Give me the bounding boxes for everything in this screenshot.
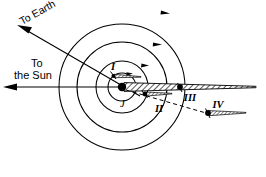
satellite-III-label: III [183, 92, 197, 103]
satellite-IV-shadow-cone [209, 111, 246, 116]
diagram-canvas: To Earth To the Sun J I II III IV [0, 0, 266, 177]
satellite-II-label: II [154, 103, 164, 114]
satellite-II-shadow-cone [146, 92, 172, 96]
orbit-direction-second-arrowhead [141, 64, 149, 68]
satellite-I-label: I [110, 61, 116, 72]
satellite-IV-shadow-cone-group [209, 111, 246, 116]
jupiter-satellites-diagram: To Earth To the Sun J I II III IV [0, 0, 266, 177]
satellite-IV-label: IV [211, 99, 224, 110]
jupiter-shadow-cone-group [124, 83, 256, 92]
jupiter-label: J [120, 97, 126, 109]
to-sun-label-line1: To [31, 57, 43, 69]
to-earth-label: To Earth [17, 0, 57, 27]
jupiter-body [118, 83, 126, 91]
to-sun-arrowhead [3, 83, 17, 90]
orbit-direction-outer-arrowhead [161, 11, 171, 15]
satellite-II-shadow-cone-group [146, 92, 172, 96]
to-sun-label-line2: the Sun [14, 69, 52, 81]
jupiter-shadow-cone [124, 83, 256, 92]
orbit-direction-third-arrowhead [153, 43, 162, 47]
